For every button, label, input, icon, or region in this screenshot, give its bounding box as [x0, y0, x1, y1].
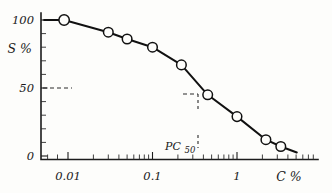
x-axis-title: C % [276, 169, 301, 184]
data-point [203, 90, 213, 100]
data-point [177, 60, 187, 70]
data-point [261, 135, 271, 145]
x-tick-label-1: 1 [233, 169, 240, 183]
data-point [122, 34, 132, 44]
x-tick-label-0-01: 0.01 [55, 169, 81, 183]
x-axis-ticks [48, 152, 314, 160]
dose-response-chart: 100 50 0 S % 0.01 0.1 1 C % PC 50 [0, 0, 332, 193]
x-tick-labels: 0.01 0.1 1 [55, 169, 240, 183]
pc50-annotation: PC 50 [164, 140, 196, 155]
x-tick-label-0-1: 0.1 [143, 169, 161, 183]
data-markers [59, 15, 286, 152]
data-point [232, 112, 242, 122]
data-curve [44, 20, 297, 153]
y-axis-title: S % [8, 41, 32, 56]
figure-container: 100 50 0 S % 0.01 0.1 1 C % PC 50 [0, 0, 332, 193]
axis-lines [41, 13, 318, 160]
axis-frame [41, 13, 318, 160]
pc50-annotation-label: PC [164, 140, 181, 153]
pc50-annotation-subscript: 50 [185, 145, 196, 155]
data-point [276, 142, 286, 152]
y-tick-label-100: 100 [12, 13, 34, 27]
y-tick-label-0: 0 [27, 149, 34, 163]
data-point [104, 27, 114, 37]
y-tick-label-50: 50 [19, 81, 34, 95]
data-point [148, 42, 158, 52]
data-point [59, 15, 69, 25]
y-tick-labels: 100 50 0 [12, 13, 34, 163]
pc50-guide [183, 94, 198, 148]
